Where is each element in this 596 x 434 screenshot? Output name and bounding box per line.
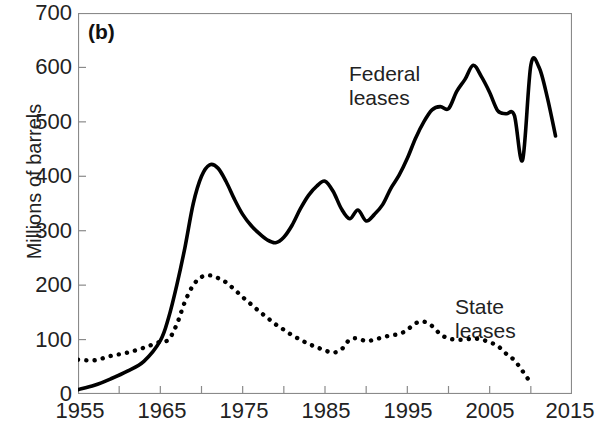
y-tick-label: 100 xyxy=(6,329,72,351)
x-tick-marks xyxy=(78,386,572,394)
x-tick-label: 2015 xyxy=(546,398,595,424)
y-tick-label: 200 xyxy=(6,274,72,296)
x-tick-label: 1985 xyxy=(302,398,351,424)
x-tick-label: 1965 xyxy=(138,398,187,424)
y-tick-label: 400 xyxy=(6,165,72,187)
state-leases-line xyxy=(78,275,531,383)
y-tick-marks xyxy=(78,13,86,394)
x-tick-label: 2005 xyxy=(466,398,515,424)
x-tick-label: 1995 xyxy=(384,398,433,424)
y-axis-tick-labels: 700 600 500 400 300 200 100 0 xyxy=(0,0,72,434)
y-tick-label: 600 xyxy=(6,56,72,78)
plot-frame xyxy=(79,14,572,394)
x-tick-label: 1975 xyxy=(220,398,269,424)
chart-canvas xyxy=(78,13,572,394)
y-tick-label: 500 xyxy=(6,111,72,133)
x-tick-label: 1955 xyxy=(56,398,105,424)
y-tick-label: 700 xyxy=(6,2,72,24)
axes-frame xyxy=(79,14,572,394)
figure-panel-b: Millions of barrels 700 600 500 400 300 … xyxy=(0,0,596,434)
y-tick-label: 300 xyxy=(6,220,72,242)
plot-area xyxy=(78,13,572,394)
x-axis-tick-labels: 1955 1965 1975 1985 1995 2005 2015 xyxy=(0,398,596,434)
